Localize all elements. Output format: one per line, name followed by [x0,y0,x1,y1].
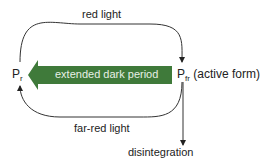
far-red-light-label: far-red light [74,122,130,134]
pr-main: P [12,67,20,81]
disintegration-label: disintegration [128,146,193,158]
pfr-main: P [177,67,185,81]
pr-node: Pr [12,67,23,83]
pfr-node: Pfr (active form) [177,67,260,83]
red-light-label: red light [82,8,121,20]
extended-dark-period-label: extended dark period [55,68,158,80]
diagram-lines [0,0,262,167]
pr-sub: r [20,74,23,83]
pfr-suffix: (active form) [190,67,260,81]
